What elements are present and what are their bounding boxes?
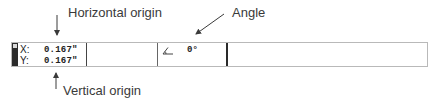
vertical-origin-label: Vertical origin xyxy=(63,84,141,97)
position-status-bar: X: 0.167" Y: 0.167" 0° xyxy=(11,42,428,67)
angle-arrow xyxy=(196,14,224,34)
horizontal-origin-label: Horizontal origin xyxy=(68,6,162,19)
angle-value: 0° xyxy=(187,45,198,55)
angle-icon xyxy=(162,46,174,55)
y-label: Y: xyxy=(20,55,29,66)
y-value: 0.167" xyxy=(44,56,78,66)
angle-label: Angle xyxy=(232,6,265,19)
x-value: 0.167" xyxy=(44,45,78,55)
x-label: X: xyxy=(20,44,29,55)
toolbar-grip-handle[interactable] xyxy=(12,43,18,66)
separator xyxy=(157,43,158,66)
grip-knob-icon[interactable] xyxy=(13,44,17,48)
separator xyxy=(226,43,228,66)
separator xyxy=(86,43,87,66)
